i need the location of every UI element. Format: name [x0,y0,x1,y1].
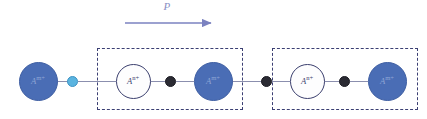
anion-dot [165,76,176,87]
cation-label: Am+ [380,77,394,86]
cation-nplus: An+ [116,64,151,99]
anion-dot [67,76,78,87]
cation-nplus: An+ [290,64,325,99]
cation-mplus: Am+ [368,62,407,101]
cation-mplus: Am+ [194,62,233,101]
polarization-arrow-group: P [0,0,427,45]
cation-label: Am+ [206,77,220,86]
cation-label: An+ [127,77,139,86]
cation-mplus: Am+ [19,62,58,101]
anion-dot [261,76,272,87]
anion-dot [339,76,350,87]
polarization-arrow-icon [0,0,427,45]
ionic-chain-diagram: P Am+An+Am+An+Am+ [0,0,427,119]
cation-label: Am+ [31,77,45,86]
cation-label: An+ [301,77,313,86]
